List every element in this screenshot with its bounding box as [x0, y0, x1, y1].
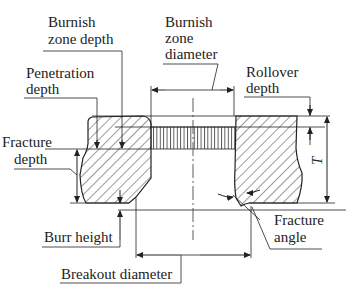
fracture-depth-label-1: Fracture — [2, 134, 52, 150]
fracture-depth-dimension: Fracture depth — [2, 134, 77, 202]
burnish-zone-diameter-label-3: diameter — [165, 46, 217, 62]
breakout-diameter-label: Breakout diameter — [61, 266, 172, 282]
fracture-angle-label-2: angle — [274, 229, 307, 245]
fracture-depth-label-2: depth — [14, 151, 48, 167]
blanking-edge-diagram: Burnish zone diameter Burnish zone depth… — [0, 0, 346, 299]
burnish-zone-diameter-label-2: zone — [165, 30, 194, 46]
penetration-depth-label-2: depth — [26, 81, 60, 97]
burnish-zone-depth-label-2: zone depth — [48, 31, 114, 47]
left-section — [80, 116, 151, 203]
burnish-zone-diameter-label-1: Burnish — [165, 14, 213, 30]
rollover-depth-label-2: depth — [246, 80, 280, 96]
right-section — [235, 116, 302, 206]
thickness-dimension: T — [309, 117, 327, 202]
burnish-zone-depth-label-1: Burnish — [48, 14, 96, 30]
burr-height-label: Burr height — [44, 229, 114, 245]
rollover-depth-label-1: Rollover — [246, 64, 299, 80]
fracture-angle-label-1: Fracture — [274, 212, 324, 228]
thickness-label: T — [309, 155, 325, 165]
penetration-depth-label-1: Penetration — [26, 65, 95, 81]
burnish-zone-diameter-dimension: Burnish zone diameter — [151, 14, 234, 127]
